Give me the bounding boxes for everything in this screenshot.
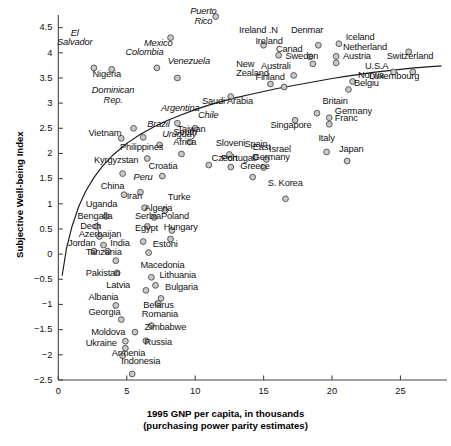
- data-point: Britain: [314, 110, 320, 116]
- y-tick-label: 1.5: [0, 173, 52, 183]
- point-label: Chile: [198, 111, 218, 121]
- x-tick-label: 20: [327, 386, 337, 396]
- x-tick-label: 15: [258, 386, 268, 396]
- point-label: ElSalvador: [57, 29, 93, 48]
- y-tick-label: 4: [0, 48, 52, 58]
- data-point: Italy: [324, 149, 330, 155]
- point-label: Ireland .N: [239, 26, 278, 36]
- point-label: Franc: [335, 114, 358, 124]
- point-label: Albania: [88, 293, 118, 303]
- point-label: Latvia: [106, 281, 130, 291]
- point-label: Romania: [142, 310, 178, 320]
- data-point: Kyrgyzstan: [120, 171, 126, 177]
- y-tick-label: −1: [0, 299, 52, 309]
- data-point: Germany: [326, 115, 332, 121]
- scatter-plot-figure: Puerto RicoMexicoIreland .NDenmarkIcelan…: [0, 0, 451, 446]
- point-label: Hungary: [164, 223, 198, 233]
- data-point: Sweden: [310, 61, 316, 67]
- point-label: Belgiu: [354, 79, 379, 89]
- point-label: Peru: [134, 173, 153, 183]
- data-point: Colombia: [154, 65, 160, 71]
- point-label: Kyrgyzstan: [94, 156, 139, 166]
- y-tick-label: −2: [0, 350, 52, 360]
- data-point: Indonesia: [129, 371, 135, 377]
- point-label: Iran: [127, 192, 142, 202]
- point-label: Argentina: [161, 104, 199, 114]
- point-label: Sweden: [286, 52, 319, 62]
- point-label: Saudi Arabia: [202, 97, 253, 107]
- y-tick-label: −0.5: [0, 274, 52, 284]
- x-tick-label: 5: [124, 386, 129, 396]
- point-label: Sloveni: [216, 139, 245, 149]
- data-point: Brazil: [140, 134, 146, 140]
- point-label: Greece: [240, 162, 270, 172]
- data-point: Estonia: [146, 250, 152, 256]
- point-label: Estoni: [153, 240, 178, 250]
- point-label: Singapore: [271, 121, 312, 131]
- point-label: Moldova: [91, 328, 125, 338]
- data-point: Iceland: [336, 41, 342, 47]
- point-label: Vietnam: [88, 129, 121, 139]
- data-point: Austria: [333, 60, 339, 66]
- point-label: China: [101, 182, 125, 192]
- x-tick-label: 0: [56, 386, 61, 396]
- point-label: Turke: [168, 193, 191, 203]
- data-point: Australia: [291, 73, 297, 79]
- data-point: Denmark: [315, 42, 321, 48]
- y-tick-label: 0.5: [0, 224, 52, 234]
- point-label: Denmar: [291, 26, 323, 36]
- point-label: Bulgaria: [165, 283, 198, 293]
- point-label: Egypt: [135, 224, 158, 234]
- x-axis-title-line2: (purchasing power parity estimates): [0, 420, 451, 433]
- y-tick-label: 4.5: [0, 22, 52, 32]
- point-label: Tanzania: [86, 248, 122, 258]
- point-label: Switzerland: [387, 52, 433, 62]
- data-point: Greece: [250, 174, 256, 180]
- point-label: Indonesia: [121, 357, 160, 367]
- point-label: Serbia: [135, 212, 161, 222]
- point-label: Finland: [255, 73, 284, 83]
- y-tick-label: −1.5: [0, 324, 52, 334]
- data-point: Venezuela: [174, 75, 180, 81]
- data-point: Tanzania: [113, 258, 119, 264]
- y-tick-label: 2: [0, 148, 52, 158]
- x-tick-label: 25: [395, 386, 405, 396]
- data-point: Lithuania: [153, 282, 159, 288]
- data-point: Finland: [281, 84, 287, 90]
- data-point: Japan: [344, 158, 350, 164]
- y-tick-label: 1: [0, 199, 52, 209]
- data-point: Moldova: [122, 338, 128, 344]
- y-axis-title: Subjective Well-being Index: [14, 131, 25, 258]
- point-label: Lithuania: [160, 271, 196, 281]
- data-point: France: [326, 121, 332, 127]
- point-label: DominicanRep.: [92, 86, 135, 105]
- x-axis-title: 1995 GNP per capita, in thousands (purch…: [0, 408, 451, 433]
- point-label: Philippines: [120, 143, 163, 153]
- point-label: Japan: [339, 145, 364, 155]
- data-point: Belgium: [346, 87, 352, 93]
- y-tick-label: 3.5: [0, 73, 52, 83]
- data-point: South Africa: [179, 151, 185, 157]
- x-tick-label: 10: [190, 386, 200, 396]
- point-label: Pakistan: [86, 269, 120, 279]
- point-label: Bengalia: [78, 212, 113, 222]
- point-label: Croatia: [149, 162, 178, 172]
- x-axis-title-line1: 1995 GNP per capita, in thousands: [0, 408, 451, 421]
- point-label: Italy: [318, 134, 334, 144]
- point-label: Russia: [145, 338, 173, 348]
- data-point: Dominican Rep.: [131, 125, 137, 131]
- y-tick-label: 3: [0, 98, 52, 108]
- y-tick-label: 2.5: [0, 123, 52, 133]
- point-label: Venezuela: [168, 57, 210, 67]
- point-label: PuertoRico: [190, 7, 217, 26]
- data-point: S. Korea: [283, 196, 289, 202]
- point-label: Zimbabwe: [145, 323, 187, 333]
- data-point: Latvia: [143, 287, 149, 293]
- y-tick-label: −2.5: [0, 375, 52, 385]
- data-point: Netherlands: [333, 53, 339, 59]
- point-label: S. Korea: [268, 179, 303, 189]
- point-label: Brazil: [147, 120, 169, 130]
- data-point: Macedonia: [148, 274, 154, 280]
- data-point: Portugal: [228, 164, 234, 170]
- data-point: Egypt: [140, 239, 146, 245]
